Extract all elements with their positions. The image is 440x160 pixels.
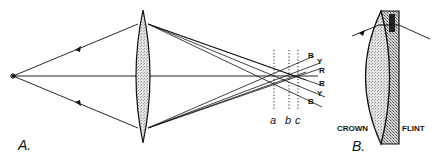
panel-b-label: B.: [352, 138, 365, 154]
panel-a: a b c B Y R R Y B A.: [10, 10, 325, 153]
focal-plane-c-label: c: [295, 114, 301, 126]
focal-plane-a-label: a: [270, 114, 276, 126]
ray-label-red-top: R: [319, 66, 325, 75]
arrow-icon: [75, 46, 81, 52]
arrow-icon: [75, 100, 81, 106]
focal-plane-b-label: b: [285, 114, 291, 126]
panel-b: CROWN FLINT B.: [337, 11, 430, 154]
flint-label: FLINT: [402, 124, 425, 133]
ray-label-yellow-top: Y: [317, 57, 323, 66]
flint-edge-shading: [389, 14, 395, 32]
panel-a-label: A.: [17, 137, 31, 153]
ray-label-red-bottom: R: [319, 79, 325, 88]
ray-label-blue-bottom: B: [308, 97, 314, 106]
chromatic-aberration-diagram: a b c B Y R R Y B A. CROWN FLINT B.: [0, 0, 440, 160]
crown-label: CROWN: [337, 124, 368, 133]
ray-exit-achromat: [399, 25, 430, 39]
converging-lens: [136, 10, 150, 143]
ray-label-blue-top: B: [308, 51, 314, 60]
arrow-icon: [359, 30, 365, 36]
ray-label-yellow-bottom: Y: [317, 89, 323, 98]
